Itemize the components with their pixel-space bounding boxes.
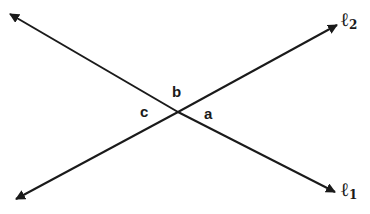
line-label-l1: ℓ1	[340, 180, 357, 201]
angle-label-b: b	[172, 84, 181, 99]
angle-label-a: a	[204, 106, 212, 121]
lines-svg	[0, 0, 370, 214]
line-label-l2: ℓ2	[340, 10, 357, 31]
line-l2	[16, 25, 337, 199]
angle-label-c: c	[140, 104, 148, 119]
line-l1	[10, 14, 335, 192]
diagram-canvas: ℓ2 ℓ1 b c a	[0, 0, 370, 214]
